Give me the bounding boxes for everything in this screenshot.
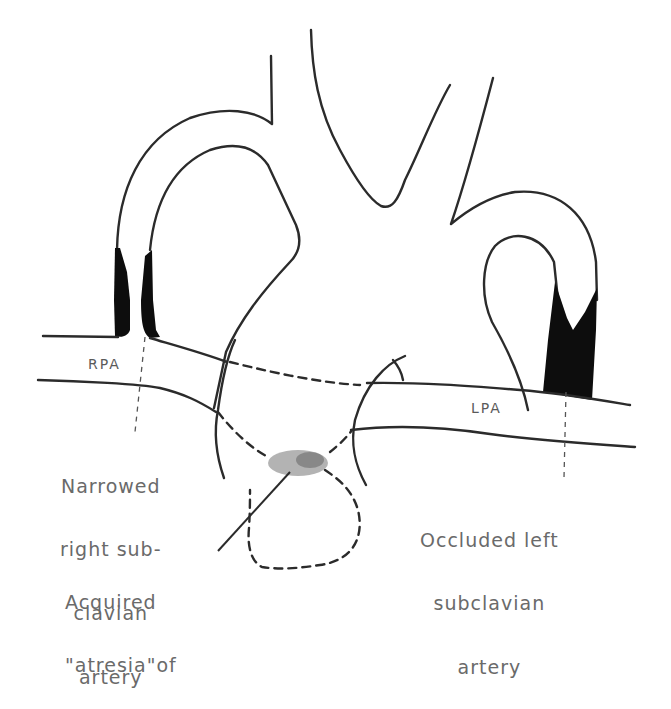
rpa-vessel <box>38 336 227 412</box>
narrowed-segment-outer <box>114 248 130 337</box>
lpa-label: LPA <box>471 401 502 417</box>
lpa-leader <box>564 392 566 478</box>
rpa-label: RPA <box>88 357 121 373</box>
atresia-leader <box>218 472 290 551</box>
narrowed-segment-inner <box>141 250 160 338</box>
acquired-atresia-label: Acquired "atresia"of pulmonary trunk at … <box>65 549 194 709</box>
occluded-left-subclavian-label: Occluded left subclavian artery <box>420 487 559 700</box>
occluded-segment <box>543 282 597 400</box>
banding-site-core <box>296 452 324 468</box>
